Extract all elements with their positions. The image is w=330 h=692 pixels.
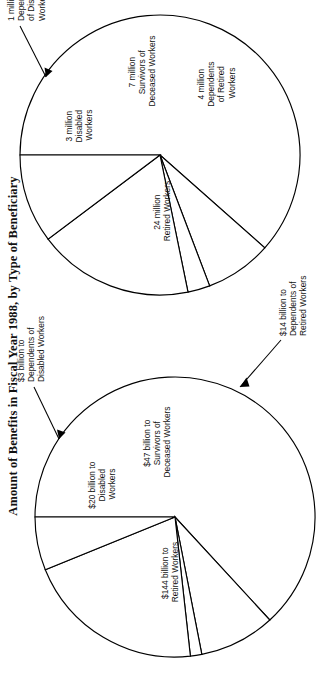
label-retired-workers-amount: $144 billion to Retired Workers (160, 542, 180, 602)
charts-canvas: $144 billion to Retired Workers $20 bill… (0, 0, 330, 692)
amounts-pie: $144 billion to Retired Workers $20 bill… (16, 276, 315, 657)
label-disabled-workers-count: 3 million Disabled Workers (64, 108, 94, 143)
beneficiaries-pie: 24 million Retired Workers 3 million Dis… (6, 0, 300, 295)
label-dependents-disabled-workers-amount: $3 billion to Dependents of Disabled Wor… (16, 316, 46, 382)
chart-page: Amount of Benefits in Fiscal Year 1988, … (0, 0, 330, 692)
leader-dependents-disabled-workers (34, 387, 59, 439)
leader-dependents-disabled-workers (20, 26, 46, 77)
label-dependents-retired-workers-amount: $14 billion to Dependents of Retired Wor… (278, 276, 308, 336)
leader-arrow-dependents-retired (240, 378, 250, 388)
label-dependents-disabled-workers-count: 1 million Dependents of Disabled Workers (6, 0, 47, 21)
